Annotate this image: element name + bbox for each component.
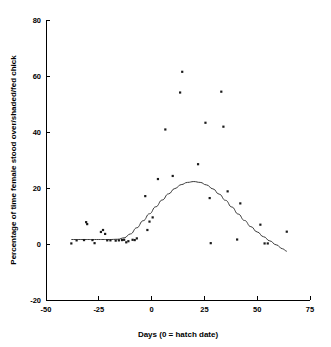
data-point (236, 238, 238, 240)
y-tick-label: 40 (33, 128, 41, 137)
x-tick-label: -50 (41, 305, 52, 314)
data-point (239, 202, 241, 204)
x-tick-label: 75 (306, 305, 314, 314)
y-tick-label: 20 (33, 184, 41, 193)
chart-figure: -20020406080 -50-250255075 Days (0 = hat… (0, 0, 331, 347)
data-point (134, 239, 136, 241)
x-tick-label: 50 (253, 305, 261, 314)
data-point (220, 91, 222, 93)
data-point (136, 237, 138, 239)
data-point (222, 126, 224, 128)
data-point (172, 175, 174, 177)
data-point (210, 242, 212, 244)
data-point (164, 128, 166, 130)
data-point (146, 229, 148, 231)
data-point (83, 239, 85, 241)
x-tick-label: -25 (93, 305, 104, 314)
data-point (121, 239, 123, 241)
scatter-plot: -20020406080 -50-250255075 Days (0 = hat… (0, 0, 331, 347)
x-axis-title: Days (0 = hatch date) (138, 330, 219, 339)
data-point (144, 195, 146, 197)
data-point (91, 239, 93, 241)
data-point (86, 223, 88, 225)
x-axis-ticks: -50-250255075 (41, 296, 315, 314)
data-point (70, 242, 72, 244)
y-axis-ticks: -20020406080 (30, 16, 50, 305)
data-point (197, 163, 199, 165)
data-point (204, 122, 206, 124)
data-point (100, 231, 102, 233)
data-point (125, 241, 127, 243)
data-point (115, 240, 117, 242)
data-point (106, 239, 108, 241)
y-tick-label: 60 (33, 72, 41, 81)
y-tick-label: 0 (37, 240, 41, 249)
data-point (109, 239, 111, 241)
data-point (263, 242, 265, 244)
data-point (127, 240, 129, 242)
data-point (131, 239, 133, 241)
data-point (286, 231, 288, 233)
y-tick-label: -20 (30, 296, 41, 305)
data-point (227, 190, 229, 192)
y-axis-title: Percentage of time female stood over/sha… (9, 55, 18, 265)
data-point (179, 91, 181, 93)
x-tick-label: 0 (150, 305, 154, 314)
data-point (85, 221, 87, 223)
data-point (259, 224, 261, 226)
data-point (76, 239, 78, 241)
data-point (104, 233, 106, 235)
data-points-layer (70, 71, 288, 245)
data-point (152, 216, 154, 218)
data-point (93, 242, 95, 244)
data-point (267, 242, 269, 244)
fitted-trend-curve (71, 182, 286, 252)
data-point (118, 239, 120, 241)
data-point (123, 239, 125, 241)
x-tick-label: 25 (200, 305, 208, 314)
data-point (209, 197, 211, 199)
data-point (181, 71, 183, 73)
data-point (148, 221, 150, 223)
data-point (157, 178, 159, 180)
data-point (102, 229, 104, 231)
y-tick-label: 80 (33, 16, 41, 25)
